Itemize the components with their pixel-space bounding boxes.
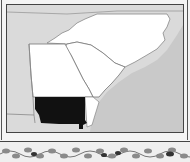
map-frame <box>6 4 184 133</box>
page-rule-right <box>187 0 188 140</box>
decorative-vine-border <box>0 141 190 162</box>
vine-pattern-icon <box>0 142 190 162</box>
regional-map <box>7 5 183 132</box>
page-rule-left <box>1 0 2 140</box>
